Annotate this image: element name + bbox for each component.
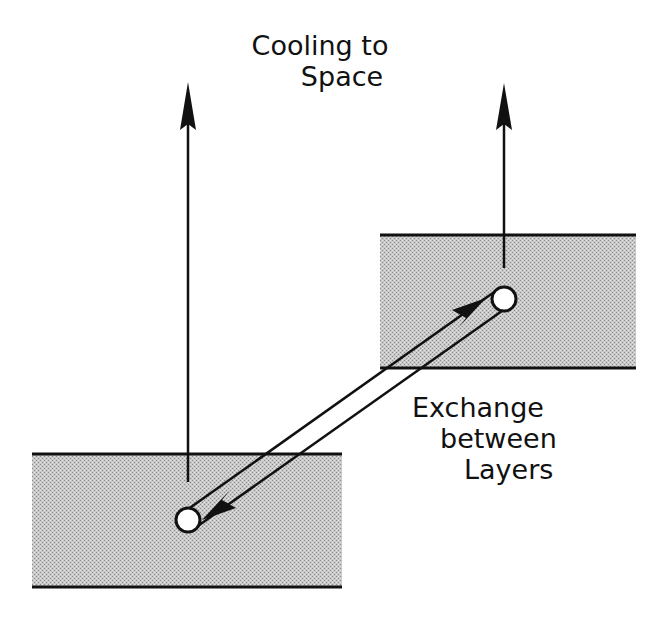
exchange-label-line2: between	[412, 423, 602, 454]
cooling-label: Cooling to Space	[232, 30, 408, 92]
lower-node	[176, 508, 200, 532]
exchange-label-line3: Layers	[412, 454, 602, 485]
cooling-label-line1: Cooling to	[232, 30, 408, 61]
cooling-label-line2: Space	[232, 61, 408, 92]
upper-node	[492, 287, 516, 311]
cooling-arrow-lower	[180, 82, 196, 482]
exchange-label: Exchange between Layers	[412, 392, 602, 485]
exchange-label-line1: Exchange	[412, 392, 602, 423]
